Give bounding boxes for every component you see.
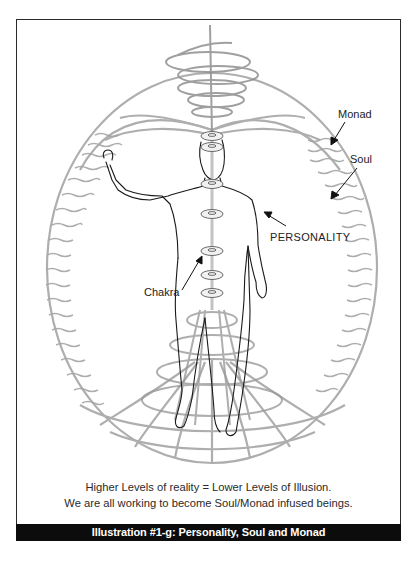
illustration-art [0,0,415,561]
chakra-arrow [182,256,202,290]
human-figure [103,140,266,436]
chakra-crown [201,132,223,141]
soul-label: Soul [350,153,372,165]
crown-vortex [166,25,258,135]
personality-arrow [264,212,286,226]
personality-label: PERSONALITY [270,231,350,243]
chakra-heart [201,210,223,219]
chakra-solar-plexus [201,247,223,256]
monad-label: Monad [338,108,372,120]
caption-line-2: We are all working to become Soul/Monad … [16,497,401,509]
chakra-root [201,289,223,298]
chakra-brow [201,143,223,152]
chakra-sacral [201,271,223,280]
chakra-throat [201,180,223,189]
chakra-label: Chakra [144,286,179,298]
right-aura-waves [308,139,372,392]
caption-line-1: Higher Levels of reality = Lower Levels … [16,481,401,493]
illustration-title: Illustration #1-g: Personality, Soul and… [16,524,401,541]
